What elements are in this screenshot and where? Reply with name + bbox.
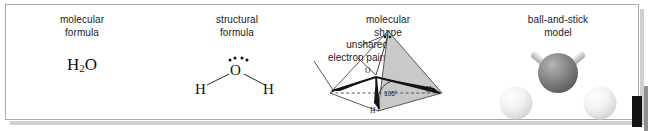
hydrogen-ball-right bbox=[584, 87, 617, 120]
figure-shadow-bottom bbox=[10, 121, 644, 125]
lewis-structure: O H H bbox=[162, 5, 312, 119]
lewis-atom-oxygen: O bbox=[230, 62, 241, 79]
molecular-formula-h2o: H2O bbox=[6, 55, 158, 75]
caption-molecular-formula: molecular formula bbox=[6, 14, 158, 39]
figure-root: molecular formula H2O structural formula… bbox=[0, 0, 648, 131]
formula-element-h: H bbox=[67, 55, 79, 74]
caption-line-2: formula bbox=[6, 27, 158, 40]
edge-gray-swatch bbox=[644, 86, 648, 131]
shape-atom-hydrogen-front: H bbox=[370, 106, 375, 115]
bond-angle-label: 105° bbox=[384, 90, 397, 97]
tetrahedron-diagram-svg bbox=[300, 5, 476, 119]
formula-element-o: O bbox=[85, 55, 97, 74]
shape-atom-hydrogen-right: H bbox=[426, 85, 431, 94]
ball-and-stick-svg bbox=[478, 5, 638, 119]
lewis-atom-hydrogen-left: H bbox=[195, 81, 206, 98]
shape-atom-oxygen: O bbox=[365, 66, 370, 75]
panel-ball-and-stick: ball-and-stick model bbox=[478, 5, 638, 119]
hydrogen-ball-left bbox=[500, 87, 533, 120]
panel-structural-formula: structural formula O H H bbox=[162, 5, 312, 119]
lewis-atom-hydrogen-right: H bbox=[263, 81, 274, 98]
caption-line-1: molecular bbox=[6, 14, 158, 27]
panel-molecular-shape: molecular shape unshared electron pairs bbox=[300, 5, 476, 119]
panel-molecular-formula: molecular formula H2O bbox=[6, 5, 158, 119]
oxygen-ball bbox=[538, 53, 578, 93]
